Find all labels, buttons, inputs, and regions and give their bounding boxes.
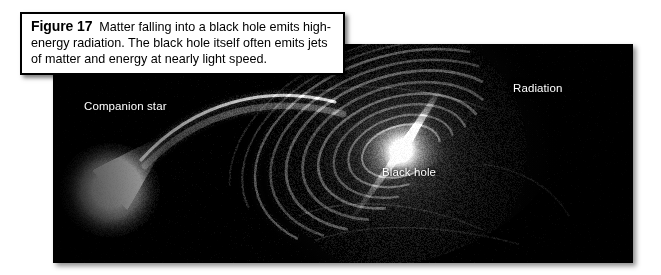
figure-caption-text: Figure 17Matter falling into a black hol… xyxy=(31,19,335,67)
figure-number-label: Figure 17 xyxy=(31,18,92,34)
figure-caption-box: Figure 17Matter falling into a black hol… xyxy=(20,12,345,75)
black-hole-illustration: Companion star Black hole Radiation xyxy=(53,44,633,263)
accretion-disk-artwork xyxy=(53,44,633,263)
figure-17: Companion star Black hole Radiation Figu… xyxy=(0,0,661,275)
